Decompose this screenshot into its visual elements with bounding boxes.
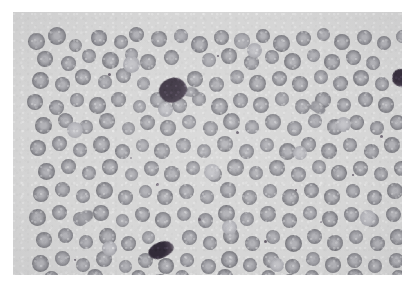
erythrocyte xyxy=(217,269,233,275)
erythrocyte xyxy=(114,35,128,49)
platelet xyxy=(295,189,297,191)
erythrocyte xyxy=(98,75,112,89)
erythrocyte xyxy=(180,253,194,267)
erythrocyte xyxy=(197,144,211,158)
platelet xyxy=(320,221,322,223)
hypochromic-erythrocyte xyxy=(270,258,284,272)
erythrocyte xyxy=(55,251,70,266)
erythrocyte xyxy=(115,144,130,159)
erythrocyte xyxy=(32,72,49,89)
erythrocyte xyxy=(263,184,277,198)
erythrocyte xyxy=(129,27,144,42)
erythrocyte xyxy=(211,98,228,115)
hypochromic-erythrocyte xyxy=(123,56,140,73)
erythrocyte xyxy=(160,120,176,136)
erythrocyte xyxy=(317,28,330,41)
erythrocyte xyxy=(292,76,308,92)
hypochromic-erythrocyte xyxy=(336,117,351,132)
erythrocyte xyxy=(36,232,52,248)
erythrocyte xyxy=(133,100,146,113)
erythrocyte xyxy=(282,274,298,275)
platelet xyxy=(236,131,239,134)
erythrocyte xyxy=(73,143,87,157)
erythrocyte xyxy=(337,98,351,112)
erythrocyte xyxy=(164,50,179,65)
platelet xyxy=(217,55,219,57)
erythrocyte xyxy=(118,190,133,205)
erythrocyte xyxy=(76,189,90,203)
erythrocyte xyxy=(307,49,320,62)
erythrocyte xyxy=(52,205,67,220)
erythrocyte xyxy=(217,136,233,152)
erythrocyte xyxy=(306,252,320,266)
erythrocyte xyxy=(61,159,76,174)
erythrocyte xyxy=(82,49,96,63)
erythrocyte xyxy=(58,228,73,243)
erythrocyte xyxy=(52,136,67,151)
platelet xyxy=(130,157,132,159)
erythrocyte xyxy=(75,69,91,85)
erythrocyte xyxy=(353,161,368,176)
erythrocyte xyxy=(200,190,214,204)
erythrocyte xyxy=(48,27,66,45)
erythrocyte xyxy=(273,35,290,52)
hypochromic-erythrocyte xyxy=(360,210,376,226)
erythrocyte xyxy=(142,231,155,244)
erythrocyte xyxy=(233,93,248,108)
erythrocyte xyxy=(296,31,311,46)
erythrocyte xyxy=(176,138,191,153)
erythrocyte xyxy=(366,56,380,70)
hypochromic-erythrocyte xyxy=(158,102,173,117)
erythrocyte xyxy=(305,270,319,275)
erythrocyte xyxy=(91,30,107,46)
erythrocyte xyxy=(175,270,189,275)
erythrocyte xyxy=(220,182,236,198)
erythrocyte xyxy=(102,159,118,175)
erythrocyte xyxy=(343,138,357,152)
erythrocyte xyxy=(38,163,55,180)
platelet xyxy=(198,218,201,221)
erythrocyte xyxy=(221,251,238,268)
erythrocyte xyxy=(326,275,341,276)
erythrocyte xyxy=(285,259,300,274)
erythrocyte xyxy=(139,185,152,198)
erythrocyte xyxy=(389,253,403,268)
erythrocyte xyxy=(346,50,361,65)
erythrocyte xyxy=(158,258,174,274)
erythrocyte xyxy=(265,114,281,130)
erythrocyte xyxy=(377,36,391,50)
erythrocyte xyxy=(203,236,217,250)
erythrocyte xyxy=(334,34,350,50)
erythrocyte xyxy=(125,168,138,181)
erythrocyte xyxy=(89,97,106,114)
erythrocyte xyxy=(144,161,159,176)
erythrocyte xyxy=(307,229,322,244)
erythrocyte xyxy=(121,236,136,251)
erythrocyte xyxy=(131,270,146,276)
erythrocyte xyxy=(390,229,402,245)
erythrocyte xyxy=(93,205,109,221)
erythrocyte xyxy=(327,235,343,251)
erythrocyte xyxy=(386,207,401,222)
erythrocyte xyxy=(116,214,129,227)
erythrocyte xyxy=(312,160,326,174)
erythrocyte xyxy=(275,92,289,106)
erythrocyte xyxy=(347,269,363,275)
erythrocyte xyxy=(358,92,373,107)
erythrocyte xyxy=(202,53,216,67)
erythrocyte xyxy=(265,50,279,64)
erythrocyte xyxy=(394,161,403,176)
erythrocyte xyxy=(287,121,302,136)
erythrocyte xyxy=(269,160,285,176)
erythrocyte xyxy=(49,100,64,115)
erythrocyte xyxy=(227,159,244,176)
erythrocyte xyxy=(76,258,90,272)
erythrocyte xyxy=(245,236,260,251)
erythrocyte xyxy=(272,71,287,86)
erythrocyte xyxy=(353,70,369,86)
erythrocyte xyxy=(322,211,338,227)
erythrocyte xyxy=(179,184,194,199)
erythrocyte xyxy=(137,77,150,90)
erythrocyte xyxy=(27,94,43,110)
erythrocyte xyxy=(70,93,84,107)
